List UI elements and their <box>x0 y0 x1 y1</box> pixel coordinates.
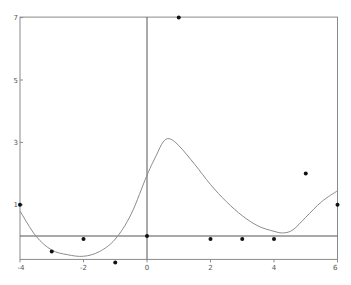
data-point <box>209 237 213 241</box>
x-tick-label: 0 <box>145 264 149 272</box>
data-point <box>304 172 308 176</box>
data-point <box>18 203 22 207</box>
y-tick-label: 3 <box>14 139 18 147</box>
plot-frame <box>20 17 338 259</box>
x-tick-label: 6 <box>333 264 338 272</box>
data-points <box>18 16 340 265</box>
y-tick-label: 1 <box>14 201 18 209</box>
data-point <box>336 203 340 207</box>
y-tick-label: 7 <box>14 14 18 22</box>
axis-ticks <box>20 18 338 263</box>
x-tick-label: 2 <box>208 264 212 272</box>
data-point <box>113 261 117 265</box>
data-point <box>177 16 181 20</box>
reference-lines <box>20 17 338 259</box>
data-point <box>272 237 276 241</box>
y-tick-label: 5 <box>14 77 18 85</box>
data-point <box>240 237 244 241</box>
data-point <box>145 234 149 238</box>
data-point <box>50 250 54 254</box>
x-tick-label: -4 <box>18 264 26 272</box>
data-point <box>82 237 86 241</box>
x-tick-label: 4 <box>272 264 277 272</box>
chart-plot: -4-202467531 <box>0 0 351 285</box>
interpolating-curve <box>20 139 338 257</box>
x-tick-label: -2 <box>80 264 87 272</box>
